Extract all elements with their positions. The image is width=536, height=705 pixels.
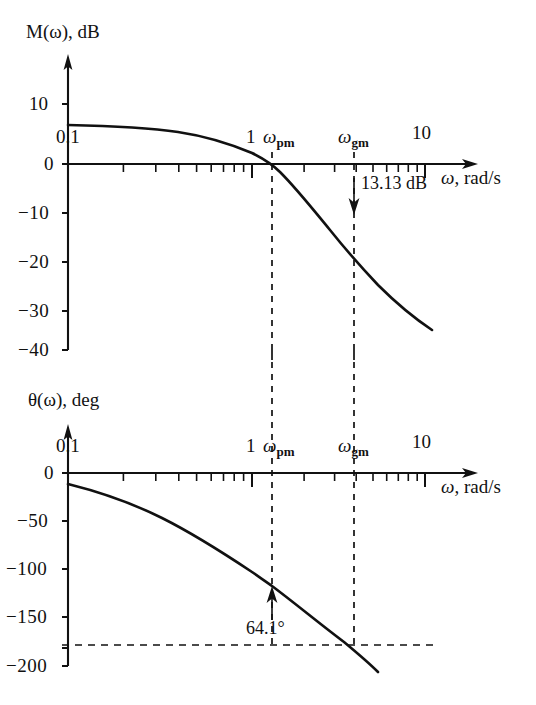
phase-curve	[68, 484, 378, 672]
magnitude-x-axis-omega: ω	[441, 167, 454, 188]
gain-margin-annotation: 13.13 dB	[361, 174, 427, 192]
magnitude-xtick-0p1: 0.1	[56, 127, 80, 146]
magnitude-y-axis	[62, 54, 72, 350]
magnitude-y-axis-title: M(ω), dB	[26, 22, 100, 41]
phase-margin-annotation: 64.1°	[246, 619, 285, 637]
phase-y-axis-title: θ(ω), deg	[28, 390, 99, 409]
magnitude-ytick-10: 10	[29, 94, 48, 113]
magnitude-omega-gm-label: ωgm	[338, 127, 369, 149]
plot-canvas	[0, 0, 536, 705]
phase-margin-arrow	[267, 586, 278, 620]
phase-ytick-minus150: −150	[6, 607, 47, 626]
magnitude-omega-pm-sub: pm	[276, 135, 294, 150]
magnitude-x-axis-title: ω, rad/s	[441, 168, 501, 187]
phase-omega-pm-base: ω	[263, 435, 276, 456]
phase-x-axis	[68, 468, 478, 487]
magnitude-ytick-0: 0	[44, 154, 54, 173]
phase-xtick-1: 1	[246, 436, 256, 455]
gain-margin-arrow	[349, 178, 360, 215]
phase-omega-gm-sub: gm	[351, 444, 368, 459]
magnitude-omega-gm-base: ω	[338, 126, 351, 147]
magnitude-ytick-minus10: −10	[18, 203, 49, 222]
magnitude-omega-pm-label: ωpm	[263, 127, 294, 149]
magnitude-ytick-minus20: −20	[18, 252, 49, 271]
phase-ytick-minus200: −200	[6, 656, 47, 675]
phase-x-axis-omega: ω	[441, 476, 454, 497]
phase-omega-gm-label: ωgm	[338, 436, 369, 458]
phase-xtick-0p1: 0.1	[56, 436, 80, 455]
magnitude-xtick-1: 1	[246, 127, 256, 146]
bode-plot-figure: M(ω), dB 10 0 −10 −20 −30 −40 0.1 1 10 ω…	[0, 0, 536, 705]
magnitude-xtick-10: 10	[412, 123, 431, 142]
magnitude-x-axis-unit: , rad/s	[454, 167, 500, 188]
magnitude-omega-pm-base: ω	[263, 126, 276, 147]
phase-x-axis-title: ω, rad/s	[441, 477, 501, 496]
phase-x-axis-unit: , rad/s	[454, 476, 500, 497]
magnitude-ytick-minus30: −30	[18, 301, 49, 320]
phase-ytick-minus100: −100	[6, 559, 47, 578]
phase-xtick-10: 10	[412, 432, 431, 451]
phase-y-axis	[62, 424, 72, 666]
magnitude-curve	[68, 125, 432, 330]
phase-omega-pm-sub: pm	[276, 444, 294, 459]
magnitude-plot-group	[62, 54, 478, 360]
phase-omega-pm-label: ωpm	[263, 436, 294, 458]
phase-ytick-minus50: −50	[17, 511, 48, 530]
magnitude-ytick-minus40: −40	[18, 340, 49, 359]
phase-omega-gm-base: ω	[338, 435, 351, 456]
magnitude-omega-gm-sub: gm	[351, 135, 368, 150]
phase-ytick-0: 0	[44, 463, 54, 482]
